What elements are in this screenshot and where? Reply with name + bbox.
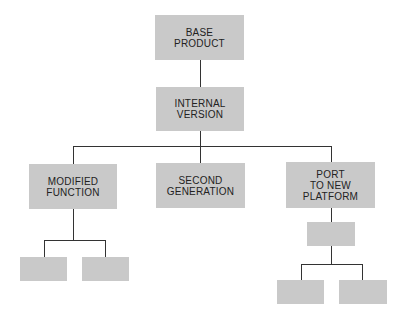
- node-label: INTERNAL VERSION: [174, 98, 225, 120]
- node-port-child: [307, 222, 355, 246]
- node-port-grandchild-2: [339, 280, 387, 304]
- node-port-grandchild-1: [277, 280, 324, 304]
- edge-port-child-bus: [331, 246, 332, 264]
- node-base-product: BASE PRODUCT: [155, 15, 244, 60]
- edge-to-second: [200, 146, 201, 163]
- edge-modified-children-bus: [44, 240, 106, 241]
- node-mod-child-2: [82, 257, 129, 281]
- node-port-to-new-platform: PORT TO NEW PLATFORM: [286, 162, 375, 208]
- edge-base-internal: [200, 60, 201, 87]
- edge-to-modified: [73, 146, 74, 164]
- edge-modified-bus: [73, 209, 74, 240]
- node-label: PORT TO NEW PLATFORM: [303, 169, 358, 202]
- product-evolution-diagram: BASE PRODUCT INTERNAL VERSION MODIFIED F…: [0, 0, 405, 318]
- node-modified-function: MODIFIED FUNCTION: [29, 164, 117, 209]
- edge-to-mod-child-1: [44, 240, 45, 257]
- edge-to-port: [331, 146, 332, 162]
- node-internal-version: INTERNAL VERSION: [156, 87, 244, 131]
- edge-internal-bus: [200, 131, 201, 146]
- edge-level2-bus: [73, 146, 332, 147]
- node-mod-child-1: [20, 257, 67, 281]
- edge-to-port-grandchild-1: [301, 264, 302, 280]
- edge-port-grandchildren-bus: [301, 264, 363, 265]
- node-second-generation: SECOND GENERATION: [156, 163, 245, 208]
- node-label: SECOND GENERATION: [167, 175, 234, 197]
- node-label: MODIFIED FUNCTION: [46, 176, 99, 198]
- edge-port-child: [331, 208, 332, 222]
- edge-to-port-grandchild-2: [362, 264, 363, 280]
- edge-to-mod-child-2: [105, 240, 106, 257]
- node-label: BASE PRODUCT: [174, 27, 225, 49]
